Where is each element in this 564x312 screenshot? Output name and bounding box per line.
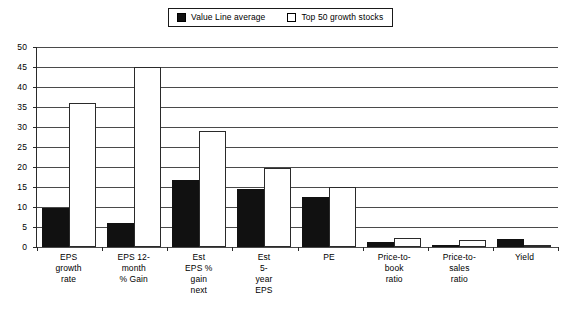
gridline xyxy=(37,147,558,148)
x-axis-category-line: rate xyxy=(36,274,101,285)
x-axis-category-line: % Gain xyxy=(101,274,166,285)
legend-label-series-a: Value Line average xyxy=(191,13,265,22)
plot-area xyxy=(36,47,558,248)
gridline xyxy=(37,207,558,208)
x-axis-category-line: 5- xyxy=(231,263,296,274)
chart-legend: Value Line average Top 50 growth stocks xyxy=(168,8,393,27)
x-axis-category-label: EstEPS %gainnext xyxy=(166,252,231,296)
x-axis-category-line: growth xyxy=(36,263,101,274)
x-axis-category-line: sales xyxy=(427,263,492,274)
x-axis-tick xyxy=(37,247,38,251)
x-axis-category-line: EPS % xyxy=(166,263,231,274)
bar-series-b xyxy=(264,168,291,247)
filled-square-icon xyxy=(177,13,186,22)
x-axis-tick xyxy=(363,247,364,251)
plot-area-wrapper: 05101520253035404550 xyxy=(0,42,564,250)
x-axis-category-line: Price-to- xyxy=(362,252,427,263)
x-axis-category-line: gain xyxy=(166,274,231,285)
y-axis-tick xyxy=(33,107,37,108)
legend-entry-top-50-growth-stocks: Top 50 growth stocks xyxy=(287,13,383,22)
x-axis-tick xyxy=(428,247,429,251)
gridline xyxy=(37,167,558,168)
y-axis-tick xyxy=(33,67,37,68)
y-axis-tick-label: 45 xyxy=(17,63,27,72)
x-axis-category-label: Est5-yearEPS xyxy=(231,252,296,296)
legend-entry-value-line-average: Value Line average xyxy=(177,13,265,22)
x-axis-category-line: Yield xyxy=(492,252,557,263)
y-axis-tick xyxy=(33,127,37,128)
x-axis-category-label: PE xyxy=(297,252,362,263)
y-axis-tick-label: 5 xyxy=(22,223,27,232)
x-axis-category-line: EPS xyxy=(231,285,296,296)
x-axis-category-label: Price-to-bookratio xyxy=(362,252,427,285)
bar-series-a xyxy=(172,180,199,247)
bar-series-b xyxy=(199,131,226,247)
x-axis-category-label: Price-to-salesratio xyxy=(427,252,492,285)
bar-series-a xyxy=(237,189,264,247)
y-axis-tick xyxy=(33,147,37,148)
y-axis-tick-label: 25 xyxy=(17,143,27,152)
x-axis-tick xyxy=(298,247,299,251)
bar-series-b xyxy=(134,67,161,247)
y-axis-tick xyxy=(33,187,37,188)
bar-series-b xyxy=(459,240,486,247)
x-axis-tick xyxy=(493,247,494,251)
gridline xyxy=(37,187,558,188)
x-axis-tick xyxy=(232,247,233,251)
x-axis-category-line: year xyxy=(231,274,296,285)
x-axis-category-line: ratio xyxy=(362,274,427,285)
y-axis-tick-label: 40 xyxy=(17,83,27,92)
x-axis-category-label: Yield xyxy=(492,252,557,263)
y-axis-tick-label: 10 xyxy=(17,203,27,212)
y-axis-tick xyxy=(33,167,37,168)
hollow-square-icon xyxy=(287,13,296,22)
gridline xyxy=(37,67,558,68)
y-axis-tick-label: 0 xyxy=(22,243,27,252)
y-axis-tick-label: 35 xyxy=(17,103,27,112)
y-axis-tick-label: 15 xyxy=(17,183,27,192)
x-axis-labels: EPSgrowthrateEPS 12-month% GainEstEPS %g… xyxy=(0,252,564,310)
gridline xyxy=(37,87,558,88)
bar-series-b xyxy=(394,238,421,247)
bar-series-a xyxy=(302,197,329,247)
x-axis-category-line: book xyxy=(362,263,427,274)
bar-series-b xyxy=(69,103,96,247)
y-axis-tick-label: 20 xyxy=(17,163,27,172)
bar-series-a xyxy=(107,223,134,247)
bar-chart: Value Line average Top 50 growth stocks … xyxy=(0,0,564,312)
x-axis-category-line: Est xyxy=(166,252,231,263)
x-axis-category-line: month xyxy=(101,263,166,274)
y-axis-tick xyxy=(33,207,37,208)
x-axis-category-line: PE xyxy=(297,252,362,263)
y-axis-tick xyxy=(33,227,37,228)
gridline xyxy=(37,107,558,108)
y-axis-tick xyxy=(33,47,37,48)
legend-label-series-b: Top 50 growth stocks xyxy=(301,13,383,22)
x-axis-category-line: Est xyxy=(231,252,296,263)
bar-series-b xyxy=(329,187,356,247)
x-axis-category-label: EPSgrowthrate xyxy=(36,252,101,285)
bar-series-a xyxy=(432,245,459,247)
bar-series-b xyxy=(524,245,551,247)
x-axis-category-label: EPS 12-month% Gain xyxy=(101,252,166,285)
x-axis-category-line: Price-to- xyxy=(427,252,492,263)
x-axis-category-line: ratio xyxy=(427,274,492,285)
gridline xyxy=(37,47,558,48)
x-axis-tick xyxy=(558,247,559,251)
x-axis-tick xyxy=(167,247,168,251)
bar-series-a xyxy=(497,239,524,247)
y-axis-tick xyxy=(33,87,37,88)
x-axis-category-line: EPS 12- xyxy=(101,252,166,263)
y-axis-labels: 05101520253035404550 xyxy=(0,42,32,247)
x-axis-category-line: next xyxy=(166,285,231,296)
bar-series-a xyxy=(42,208,69,247)
x-axis-tick xyxy=(102,247,103,251)
bar-series-a xyxy=(367,242,394,247)
gridline xyxy=(37,127,558,128)
x-axis-category-line: EPS xyxy=(36,252,101,263)
y-axis-tick-label: 30 xyxy=(17,123,27,132)
y-axis-tick-label: 50 xyxy=(17,43,27,52)
